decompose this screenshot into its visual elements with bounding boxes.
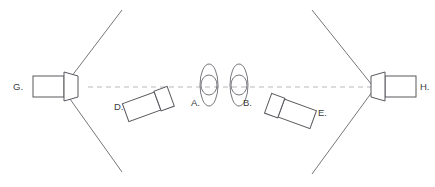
camera-e-body (278, 99, 316, 128)
fov-g-upper-line (65, 10, 122, 85)
optical-diagram: G. H. D. E. A. B. (0, 0, 435, 187)
camera-h-body (385, 76, 416, 97)
camera-d-body (122, 92, 160, 121)
camera-h (371, 72, 416, 101)
lens-a-outer-ellipse (200, 64, 218, 106)
camera-g (33, 72, 78, 101)
label-h: H. (420, 81, 430, 92)
label-b: B. (243, 97, 252, 108)
lens-a-inner-ellipse (201, 75, 217, 95)
label-a: A. (191, 97, 200, 108)
label-g: G. (13, 81, 23, 92)
camera-h-lens (371, 72, 385, 101)
camera-d (122, 86, 174, 122)
fov-lines-right (312, 10, 372, 174)
label-e: E. (318, 107, 327, 118)
label-d: D. (114, 101, 124, 112)
lens-b-inner-ellipse (231, 75, 247, 95)
fov-h-upper-line (312, 10, 372, 85)
fov-h-lower-line (312, 92, 372, 174)
diagram-canvas: G. H. D. E. A. B. (0, 0, 435, 187)
camera-g-lens (64, 72, 78, 101)
lens-element-a (200, 64, 218, 106)
camera-e (265, 93, 317, 129)
camera-g-body (33, 76, 64, 97)
